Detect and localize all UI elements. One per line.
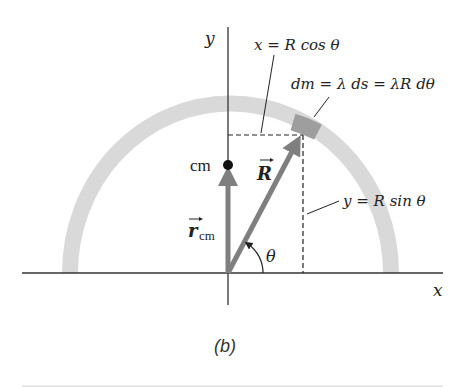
x-eq-leader: [261, 55, 274, 133]
R-vector-label: R: [256, 163, 272, 184]
cm-point: [223, 160, 233, 170]
dm-eq-leader: [314, 97, 329, 117]
theta-label: θ: [266, 247, 276, 266]
r-cm-label: r: [188, 220, 199, 241]
y-axis-label: y: [204, 28, 215, 48]
theta-angle-arc: [248, 244, 263, 273]
cm-label: cm: [190, 156, 211, 175]
x-axis-label: x: [433, 280, 443, 300]
y-equation-label: y = R sin θ: [342, 192, 426, 210]
r-cm-subscript: cm: [199, 228, 215, 243]
dm-equation-label: dm = λ ds = λR dθ: [291, 75, 435, 93]
dm-segment: [293, 122, 318, 132]
semicircle-center-of-mass-diagram: y x x = R cos θ dm = λ ds = λR dθ y = R …: [0, 0, 469, 387]
figure-caption: (b): [214, 336, 236, 356]
y-eq-leader: [307, 201, 339, 214]
x-equation-label: x = R cos θ: [254, 36, 340, 54]
